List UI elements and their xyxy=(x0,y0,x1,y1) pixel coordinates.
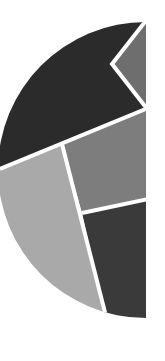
emblem-segments xyxy=(0,0,148,332)
half-circle-emblem xyxy=(0,0,165,361)
